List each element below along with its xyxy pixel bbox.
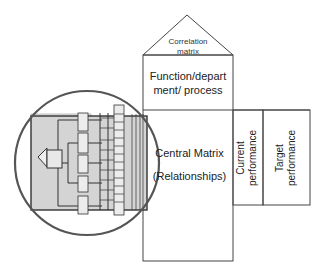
function-room-label: Function/depart ment/ process [143, 70, 233, 98]
current-label-line2: performance [247, 109, 259, 207]
current-performance-label: Current performance [235, 109, 261, 207]
central-label-line1: Central Matrix [146, 142, 233, 165]
target-label-line1: Target [274, 109, 286, 207]
house-of-quality-diagram [0, 0, 314, 276]
current-label-line1: Current [235, 109, 247, 207]
central-matrix-label: Central Matrix (Relationships) [146, 142, 233, 188]
function-label-line1: Function/depart [143, 70, 233, 84]
correlation-label: Correlation matrix [168, 37, 207, 56]
central-label-line2: (Relationships) [146, 165, 233, 188]
function-label-line2: ment/ process [143, 84, 233, 98]
requirements-tree [31, 105, 147, 215]
target-performance-label: Target performance [274, 109, 300, 207]
target-label-line2: performance [286, 109, 298, 207]
correlation-matrix-label: Correlation matrix [160, 37, 216, 57]
